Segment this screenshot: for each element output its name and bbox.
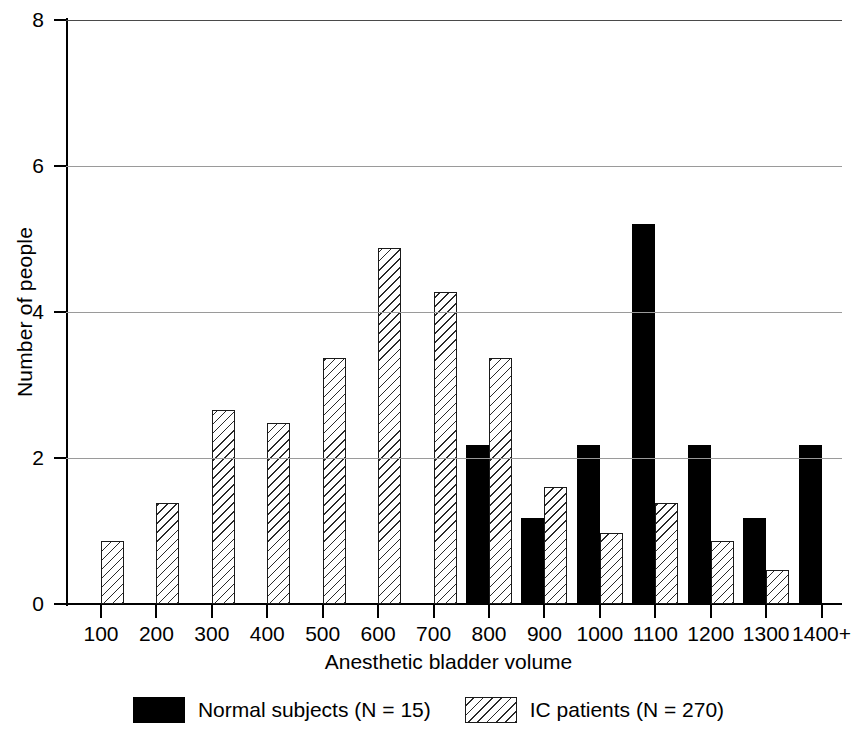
x-tick-900 xyxy=(543,605,545,618)
bar-ic-1100 xyxy=(655,503,678,604)
bar-ic-800 xyxy=(489,358,512,604)
y-tick-8 xyxy=(54,19,66,21)
bar-ic-1300 xyxy=(766,570,789,604)
x-tick-label-1400+: 1400+ xyxy=(792,622,851,646)
y-tick-label-8: 8 xyxy=(8,9,44,30)
x-tick-label-1300: 1300 xyxy=(743,622,790,646)
x-tick-1200 xyxy=(710,605,712,618)
x-tick-label-600: 600 xyxy=(361,622,396,646)
y-tick-6 xyxy=(54,165,66,167)
x-tick-400 xyxy=(266,605,268,618)
gridline-6 xyxy=(66,166,842,167)
bar-ic-900 xyxy=(544,487,567,604)
x-tick-300 xyxy=(211,605,213,618)
bar-normal-900 xyxy=(521,518,544,604)
x-tick-600 xyxy=(377,605,379,618)
x-tick-label-700: 700 xyxy=(416,622,451,646)
x-tick-1400+ xyxy=(821,605,823,618)
x-tick-label-200: 200 xyxy=(139,622,174,646)
x-tick-label-900: 900 xyxy=(527,622,562,646)
x-tick-label-1000: 1000 xyxy=(576,622,623,646)
legend: Normal subjects (N = 15) IC patients (N … xyxy=(0,697,857,723)
bar-chart-figure: Number of people 86420 10020030040050060… xyxy=(0,0,857,734)
x-tick-label-100: 100 xyxy=(83,622,118,646)
bar-ic-500 xyxy=(323,358,346,604)
x-tick-label-300: 300 xyxy=(194,622,229,646)
solid-black-swatch xyxy=(133,697,185,723)
bar-ic-1000 xyxy=(600,533,623,604)
x-axis-title: Anesthetic bladder volume xyxy=(0,650,857,674)
bar-ic-100 xyxy=(101,541,124,604)
bar-normal-800 xyxy=(466,445,489,604)
bar-normal-1200 xyxy=(688,445,711,604)
x-tick-label-1200: 1200 xyxy=(687,622,734,646)
bar-ic-700 xyxy=(434,292,457,604)
gridline-8 xyxy=(66,20,842,21)
bar-ic-600 xyxy=(378,248,401,604)
x-tick-1100 xyxy=(654,605,656,618)
x-tick-label-800: 800 xyxy=(471,622,506,646)
x-tick-100 xyxy=(100,605,102,618)
x-tick-label-1100: 1100 xyxy=(633,622,678,646)
gridline-2 xyxy=(66,458,842,459)
legend-item-ic-patients: IC patients (N = 270) xyxy=(465,697,724,723)
legend-label-normal-subjects: Normal subjects (N = 15) xyxy=(198,698,431,722)
y-tick-label-2: 2 xyxy=(8,447,44,468)
x-tick-1000 xyxy=(599,605,601,618)
bar-normal-1300 xyxy=(743,518,766,604)
gridline-4 xyxy=(66,312,842,313)
y-tick-2 xyxy=(54,457,66,459)
y-tick-label-6: 6 xyxy=(8,155,44,176)
x-tick-800 xyxy=(488,605,490,618)
x-tick-label-400: 400 xyxy=(250,622,285,646)
y-tick-label-4: 4 xyxy=(8,301,44,322)
legend-label-ic-patients: IC patients (N = 270) xyxy=(530,698,724,722)
bar-ic-1200 xyxy=(711,541,734,604)
x-tick-200 xyxy=(155,605,157,618)
y-tick-label-0: 0 xyxy=(8,593,44,614)
y-tick-4 xyxy=(54,311,66,313)
y-tick-0 xyxy=(54,603,66,605)
bar-ic-300 xyxy=(212,410,235,604)
bar-normal-1000 xyxy=(577,445,600,604)
bar-ic-400 xyxy=(267,423,290,604)
bar-normal-1400+ xyxy=(799,445,822,604)
x-tick-1300 xyxy=(765,605,767,618)
legend-item-normal-subjects: Normal subjects (N = 15) xyxy=(133,697,431,723)
x-tick-700 xyxy=(433,605,435,618)
x-tick-500 xyxy=(322,605,324,618)
bar-normal-1100 xyxy=(632,224,655,604)
bar-ic-200 xyxy=(156,503,179,604)
x-tick-label-500: 500 xyxy=(305,622,340,646)
hatched-swatch xyxy=(465,697,517,723)
